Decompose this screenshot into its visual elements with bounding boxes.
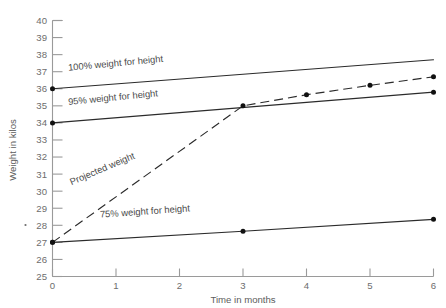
y-tick-label: 37 — [36, 66, 47, 77]
y-tick-label: 31 — [36, 169, 47, 180]
data-point-marker — [241, 229, 246, 234]
data-point-marker — [431, 217, 436, 222]
series-annotation: 75% weight for height — [100, 202, 191, 219]
x-axis-title: Time in months — [210, 294, 275, 305]
y-tick-label: 35 — [36, 100, 47, 111]
data-point-marker — [50, 86, 55, 91]
x-tick-label: 4 — [304, 280, 310, 291]
data-point-marker — [368, 83, 373, 88]
y-tick-label: 26 — [36, 254, 47, 265]
series-annotations: 100% weight for height95% weight for hei… — [68, 53, 191, 220]
y-tick-label: 27 — [36, 237, 47, 248]
weight-for-height-chart: 25262728293031323334353637383940 0123456… — [0, 0, 446, 308]
y-tick-label: 33 — [36, 134, 47, 145]
y-tick-label: 25 — [36, 271, 47, 282]
x-tick-label: 0 — [50, 280, 55, 291]
data-point-marker — [241, 103, 246, 108]
series-annotation: 95% weight for height — [68, 87, 159, 107]
x-tick-label: 6 — [431, 280, 436, 291]
y-tick-label: 40 — [36, 15, 47, 26]
y-tick-label: 36 — [36, 83, 47, 94]
x-tick-label: 5 — [367, 280, 372, 291]
y-tick-label: 34 — [36, 117, 47, 128]
y-tick-label: 28 — [36, 220, 47, 231]
x-tick-label: 3 — [240, 280, 245, 291]
chart-canvas: 25262728293031323334353637383940 0123456… — [0, 0, 446, 308]
data-point-marker — [50, 240, 55, 245]
data-point-marker — [50, 120, 55, 125]
y-tick-label: 38 — [36, 49, 47, 60]
x-tick-label: 2 — [177, 280, 182, 291]
series-annotation: 100% weight for height — [68, 53, 164, 73]
y-tick-label: 29 — [36, 203, 47, 214]
series-annotation: Projected weight — [68, 150, 136, 187]
x-tick-label: 1 — [113, 280, 118, 291]
y-tick-label: 30 — [36, 186, 47, 197]
y-tick-label: 39 — [36, 32, 47, 43]
y-axis-title: Weight in kilos — [7, 119, 18, 181]
x-axis-ticks: 0123456 — [50, 269, 436, 292]
data-point-marker — [431, 90, 436, 95]
y-tick-label: 32 — [36, 151, 47, 162]
data-point-marker — [431, 74, 436, 79]
data-point-marker — [304, 92, 309, 97]
stray-dot-artifact — [24, 224, 26, 226]
